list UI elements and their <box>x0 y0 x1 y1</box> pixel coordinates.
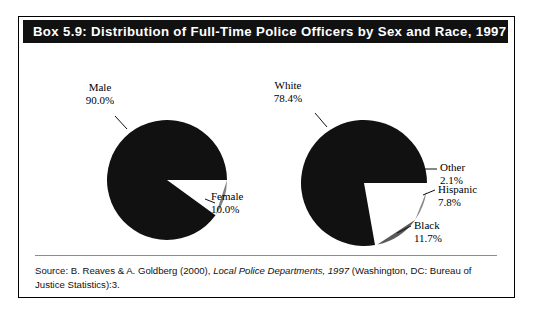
source-prefix: Source: B. Reaves & A. Goldberg (2000), <box>35 265 213 276</box>
pie-label-black: Black 11.7% <box>414 219 442 245</box>
leader-line-hispanic <box>423 190 435 195</box>
source-title-italic: Local Police Departments, 1997 <box>213 265 349 276</box>
pie-label-hispanic-pct: 7.8% <box>438 196 477 209</box>
source-divider <box>35 255 497 256</box>
pie-label-hispanic: Hispanic 7.8% <box>438 183 477 209</box>
box-title-bar: Box 5.9: Distribution of Full-Time Polic… <box>23 20 508 43</box>
pie-label-white-pct: 78.4% <box>259 92 317 105</box>
leader-line-white <box>315 113 327 127</box>
page-title: Box 5.9: Distribution of Full-Time Polic… <box>33 24 506 39</box>
pie-label-white-name: White <box>275 79 302 91</box>
pie-label-white: White 78.4% <box>259 79 317 105</box>
box-figure: Box 5.9: Distribution of Full-Time Polic… <box>18 16 515 298</box>
pie-label-other-name: Other <box>440 161 465 173</box>
source-note: Source: B. Reaves & A. Goldberg (2000), … <box>35 264 499 292</box>
pie-label-black-name: Black <box>414 219 440 231</box>
pie-label-hispanic-name: Hispanic <box>438 183 477 195</box>
pie-slice-hispanic <box>364 183 427 220</box>
charts-area: Male 90.0% Female 10.0% Wh <box>19 43 514 255</box>
pie-slice-other <box>364 183 427 191</box>
pie-label-black-pct: 11.7% <box>414 232 442 245</box>
leader-line-black <box>397 226 411 233</box>
